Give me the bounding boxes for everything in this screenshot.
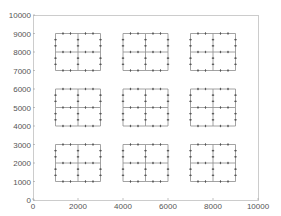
marker-dot [55, 45, 57, 47]
marker-dot [85, 144, 87, 146]
marker-dot [137, 144, 139, 146]
marker-dot [122, 156, 124, 158]
marker-dot [235, 57, 237, 59]
marker-dot [190, 64, 192, 66]
y-tick-label: 10000 [9, 11, 32, 20]
marker-dot [122, 168, 124, 170]
marker-dot [92, 107, 94, 109]
marker-dot [235, 101, 237, 103]
marker-dot [100, 113, 102, 115]
marker-dot [130, 181, 132, 183]
marker-dot [100, 57, 102, 59]
marker-dot [77, 94, 79, 96]
marker-dot [205, 181, 207, 183]
marker-dot [92, 70, 94, 72]
marker-dot [197, 144, 199, 146]
marker-dot [190, 175, 192, 177]
marker-dot [100, 150, 102, 152]
marker-dot [55, 57, 57, 59]
marker-dot [235, 175, 237, 177]
marker-dot [190, 150, 192, 152]
marker-dot [227, 51, 229, 53]
marker-dot [130, 144, 132, 146]
marker-dot [100, 94, 102, 96]
marker-dot [77, 64, 79, 66]
marker-dot [227, 144, 229, 146]
marker-dot [235, 156, 237, 158]
marker-dot [167, 150, 169, 152]
marker-dot [227, 107, 229, 109]
marker-dot [197, 51, 199, 53]
marker-dot [197, 88, 199, 90]
marker-dot [122, 175, 124, 177]
marker-dot [85, 162, 87, 164]
marker-dot [152, 125, 154, 127]
axes-box [34, 16, 259, 201]
marker-dot [122, 57, 124, 59]
marker-dot [92, 88, 94, 90]
marker-dot [167, 175, 169, 177]
marker-dot [197, 181, 199, 183]
marker-dot [190, 101, 192, 103]
marker-dot [212, 39, 214, 41]
marker-dot [77, 119, 79, 121]
marker-dot [167, 94, 169, 96]
marker-dot [212, 101, 214, 103]
chart: 0200040006000800010000 01000200030004000… [0, 0, 281, 216]
marker-dot [145, 94, 147, 96]
marker-dot [212, 150, 214, 152]
marker-dot [137, 162, 139, 164]
marker-dot [220, 33, 222, 35]
marker-dot [122, 113, 124, 115]
marker-dot [205, 88, 207, 90]
marker-dot [77, 168, 79, 170]
marker-dot [70, 70, 72, 72]
y-tick-label: 3000 [13, 141, 31, 150]
marker-dot [152, 88, 154, 90]
marker-dot [145, 101, 147, 103]
marker-dot [77, 39, 79, 41]
marker-dot [145, 156, 147, 158]
marker-dot [62, 33, 64, 35]
marker-dot [100, 156, 102, 158]
marker-dot [235, 119, 237, 121]
marker-dot [70, 33, 72, 35]
marker-dot [160, 51, 162, 53]
marker-dot [122, 101, 124, 103]
marker-dot [70, 125, 72, 127]
marker-dot [122, 64, 124, 66]
marker-dot [212, 45, 214, 47]
x-tick-label: 10000 [247, 202, 270, 211]
y-tick-label: 6000 [13, 85, 31, 94]
marker-dot [137, 88, 139, 90]
y-tick-label: 7000 [13, 67, 31, 76]
marker-dot [122, 94, 124, 96]
marker-dot [92, 125, 94, 127]
marker-dot [137, 70, 139, 72]
marker-dot [197, 125, 199, 127]
marker-dot [70, 162, 72, 164]
x-tick-label: 6000 [159, 202, 177, 211]
marker-dot [160, 162, 162, 164]
marker-dot [212, 94, 214, 96]
marker-dot [55, 64, 57, 66]
marker-dot [145, 39, 147, 41]
marker-dot [145, 45, 147, 47]
marker-dot [77, 101, 79, 103]
marker-dot [152, 51, 154, 53]
marker-dot [212, 156, 214, 158]
y-tick-label: 4000 [13, 122, 31, 131]
marker-dot [227, 181, 229, 183]
marker-dot [62, 107, 64, 109]
marker-dot [62, 144, 64, 146]
marker-dot [145, 64, 147, 66]
marker-dot [55, 94, 57, 96]
marker-dot [92, 181, 94, 183]
x-tick-label: 2000 [69, 202, 87, 211]
marker-dot [70, 51, 72, 53]
marker-dot [130, 70, 132, 72]
marker-dot [137, 51, 139, 53]
marker-dot [62, 70, 64, 72]
marker-dot [235, 168, 237, 170]
marker-dot [160, 144, 162, 146]
